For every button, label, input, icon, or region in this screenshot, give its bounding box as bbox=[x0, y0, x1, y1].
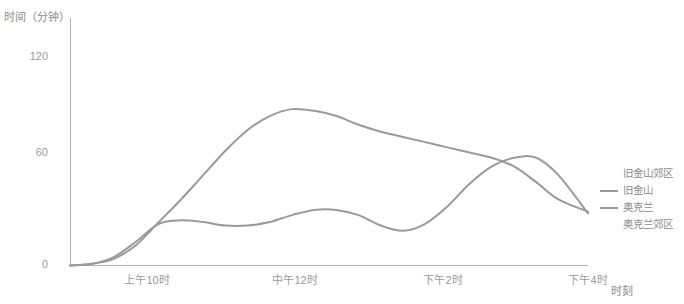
legend-swatch-0 bbox=[600, 173, 618, 175]
legend-label-3: 奥克兰郊区 bbox=[623, 216, 673, 233]
chart-plot-area bbox=[0, 0, 684, 304]
legend: 旧金山郊区 旧金山 奥克兰 奥克兰郊区 bbox=[600, 165, 684, 233]
legend-label-0: 旧金山郊区 bbox=[623, 165, 673, 182]
series-lines-group bbox=[70, 109, 588, 266]
legend-item-3[interactable]: 奥克兰郊区 bbox=[600, 216, 684, 233]
legend-swatch-2 bbox=[600, 207, 618, 209]
legend-label-2: 奥克兰 bbox=[623, 199, 653, 216]
legend-item-0[interactable]: 旧金山郊区 bbox=[600, 165, 684, 182]
legend-item-2[interactable]: 奥克兰 bbox=[600, 199, 684, 216]
line-chart: 时间（分钟） 时刻 120 60 0 上午10时 中午12时 下午2时 下午4时… bbox=[0, 0, 684, 304]
series-line-1 bbox=[70, 156, 588, 265]
legend-swatch-3 bbox=[600, 224, 618, 226]
legend-swatch-1 bbox=[600, 190, 618, 192]
legend-label-1: 旧金山 bbox=[623, 182, 653, 199]
series-line-0 bbox=[70, 109, 588, 266]
legend-item-1[interactable]: 旧金山 bbox=[600, 182, 684, 199]
